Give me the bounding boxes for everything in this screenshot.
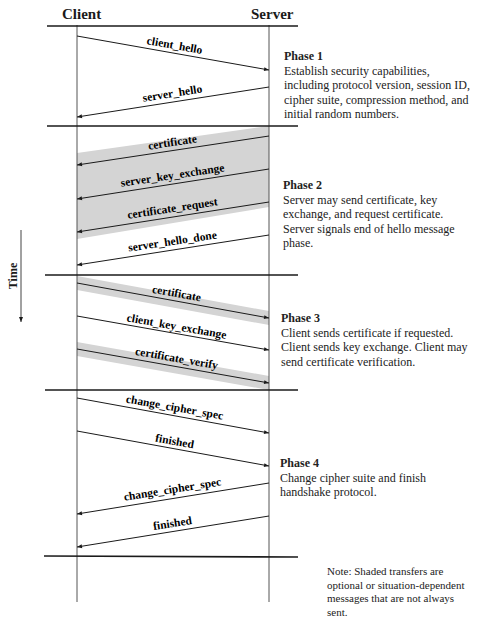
- phase-2-title: Phase 2: [283, 178, 475, 193]
- phase-3-text: Client sends certificate if requested. C…: [281, 326, 468, 369]
- label-change-cipher-spec-s2c: change_cipher_spec: [123, 475, 222, 503]
- shaded-transfers-note: Note: Shaded transfers are optional or s…: [327, 565, 477, 618]
- label-server-hello: server_hello: [142, 82, 203, 103]
- phase-4-title: Phase 4: [280, 456, 440, 471]
- phase-1-description: Phase 1 Establish security capabilities,…: [284, 49, 474, 122]
- phase-3-description: Phase 3 Client sends certificate if requ…: [281, 311, 473, 369]
- label-change-cipher-spec-c2s: change_cipher_spec: [125, 393, 224, 423]
- phase-2-description: Phase 2 Server may send certificate, key…: [283, 178, 475, 251]
- label-client-key-exchange: client_key_exchange: [126, 311, 228, 341]
- phase-3-title: Phase 3: [281, 311, 473, 326]
- phase-4-description: Phase 4 Change cipher suite and finish h…: [280, 456, 440, 500]
- phase-1-messages: client_hello server_hello: [77, 34, 269, 117]
- server-header: Server: [251, 6, 293, 23]
- label-client-hello: client_hello: [146, 34, 204, 56]
- time-label: Time: [6, 262, 20, 289]
- phase-4-text: Change cipher suite and finish handshake…: [280, 471, 426, 500]
- phase-1-text: Establish security capabilities, includi…: [284, 64, 470, 122]
- separator-4: [44, 556, 298, 557]
- phase-2-text: Server may send certificate, key exchang…: [283, 193, 455, 251]
- tls-handshake-diagram: Time client_hello server_hello certifica…: [0, 0, 477, 618]
- phase-4-messages: change_cipher_spec finished change_ciphe…: [77, 393, 269, 547]
- label-finished-c2s: finished: [154, 432, 195, 451]
- client-header: Client: [62, 6, 101, 23]
- phase-1-title: Phase 1: [284, 49, 474, 64]
